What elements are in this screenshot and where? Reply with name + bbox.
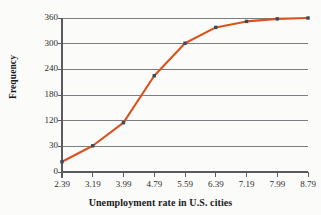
- data-line-cumulative-frequency: [62, 18, 308, 162]
- gridlines: [62, 18, 308, 172]
- x-axis-title: Unemployment rate in U.S. cities: [0, 197, 321, 208]
- plot-area: [0, 0, 321, 215]
- chart-container: Frequency 030120180240300360 2.393.193.9…: [0, 0, 321, 215]
- x-axis-ticks: [62, 172, 308, 177]
